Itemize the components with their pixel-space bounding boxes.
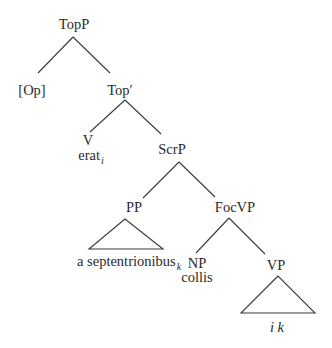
node-focvp: FocVP [215,200,255,215]
node-pp-word: a septentrionibusk [77,254,181,269]
edge-topp-op [38,37,73,73]
node-op: [Op] [18,83,45,98]
node-pp: PP [126,200,142,215]
edge-topbar-v [90,100,125,132]
node-v-word: erati [78,148,104,163]
node-topp: TopP [59,17,89,32]
tree-branches [0,0,332,348]
node-vp-trace: i k [270,320,284,335]
node-scrp: ScrP [158,142,185,157]
syntax-tree-diagram: TopP [Op] Top′ V erati ScrP PP a septent… [0,0,332,348]
node-vp: VP [267,258,286,273]
pp-word: a septentrionibus [77,253,176,269]
edge-focvp-np [196,218,229,253]
edge-scrp-pp [143,162,179,198]
node-top-bar: Top′ [107,83,133,98]
node-v: V [83,133,93,148]
node-np-word: collis [181,270,212,285]
pp-triangle [89,219,163,249]
v-word: erat [78,147,100,163]
edge-topp-topbar [73,37,110,73]
vp-triangle [241,276,315,313]
edge-scrp-focvp [179,162,215,197]
edge-topbar-scrp [125,100,161,134]
v-index: i [101,155,104,166]
edge-focvp-vp [229,218,265,254]
